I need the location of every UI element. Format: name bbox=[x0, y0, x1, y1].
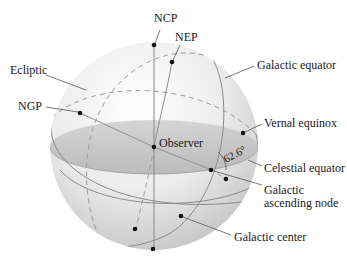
south-celestial-pole-point bbox=[151, 247, 156, 252]
vernal-equinox-label: Vernal equinox bbox=[264, 116, 337, 130]
galactic-ascending-node-label-line1: Galactic bbox=[264, 183, 304, 197]
south-galactic-pole-point bbox=[224, 177, 229, 182]
ncp-leader bbox=[155, 30, 160, 43]
celestial-sphere-diagram: NCP NEP Ecliptic Galactic equator NGP Ve… bbox=[0, 0, 347, 263]
galactic-ascending-node-point bbox=[209, 168, 214, 173]
galactic-equator-label: Galactic equator bbox=[257, 58, 336, 72]
ncp-point bbox=[152, 43, 157, 48]
galactic-equator-leader bbox=[225, 66, 254, 78]
observer-label: Observer bbox=[159, 136, 203, 150]
diagram-canvas: NCP NEP Ecliptic Galactic equator NGP Ve… bbox=[0, 0, 347, 263]
celestial-equator-label: Celestial equator bbox=[264, 161, 345, 175]
nep-point bbox=[170, 60, 175, 65]
galactic-center-label: Galactic center bbox=[234, 230, 306, 244]
vernal-equinox-point bbox=[241, 131, 246, 136]
ncp-label: NCP bbox=[154, 11, 178, 25]
observer-point bbox=[152, 145, 157, 150]
galactic-ascending-node-label-line2: ascending node bbox=[264, 196, 338, 210]
galactic-center-point bbox=[179, 214, 184, 219]
ecliptic-label: Ecliptic bbox=[10, 63, 47, 77]
south-ecliptic-pole-point bbox=[133, 227, 138, 232]
ngp-label: NGP bbox=[18, 99, 42, 113]
nep-label: NEP bbox=[175, 30, 198, 44]
ngp-point bbox=[78, 111, 83, 116]
